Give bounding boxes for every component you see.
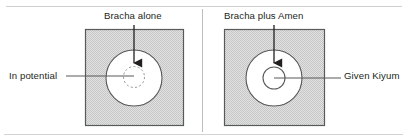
diagram-canvas: [0, 0, 407, 138]
panel-title-right: Bracha plus Amen: [224, 10, 303, 22]
panel-left: [66, 25, 184, 126]
side-label-given-kiyum: Given Kiyum: [344, 70, 399, 82]
side-label-in-potential: In potential: [9, 70, 57, 82]
panel-title-left: Bracha alone: [104, 10, 162, 22]
panel-right: [225, 25, 342, 126]
figure-root: Bracha alone Bracha plus Amen In potenti…: [0, 0, 407, 138]
